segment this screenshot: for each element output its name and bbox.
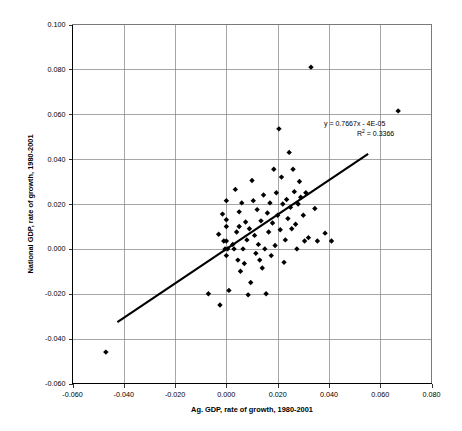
trendline-equation-label: y = 0.7667x - 4E-05: [324, 120, 385, 128]
x-tick-label: -0.040: [114, 390, 134, 399]
scatter-chart: -0.060-0.040-0.0200.0000.0200.0400.0600.…: [0, 0, 462, 431]
x-tick-label: 0.060: [371, 390, 389, 399]
y-axis-title: National GDP, rate of growth, 1980-2001: [26, 134, 35, 273]
x-axis-title: Ag. GDP, rate of growth, 1980-2001: [191, 405, 313, 414]
r-squared-value: = 0.3366: [365, 130, 394, 137]
y-tick-label: 0.020: [48, 200, 66, 209]
x-tick-label: 0.040: [320, 390, 338, 399]
x-tick-label: 0.000: [217, 390, 235, 399]
x-tick-label: 0.080: [423, 390, 441, 399]
x-tick-label: 0.020: [269, 390, 287, 399]
x-tick-label: -0.060: [62, 390, 82, 399]
x-tick-label: -0.020: [165, 390, 185, 399]
chart-background: [0, 0, 462, 431]
y-tick-label: 0.060: [48, 110, 66, 119]
y-tick-label: -0.060: [45, 379, 65, 388]
y-tick-label: 0.040: [48, 155, 66, 164]
chart-canvas: -0.060-0.040-0.0200.0000.0200.0400.0600.…: [0, 0, 462, 431]
y-tick-label: 0.080: [48, 65, 66, 74]
y-tick-label: 0.000: [48, 244, 66, 253]
y-tick-label: -0.020: [45, 289, 65, 298]
y-tick-label: -0.040: [45, 334, 65, 343]
y-tick-label: 0.100: [48, 20, 66, 29]
